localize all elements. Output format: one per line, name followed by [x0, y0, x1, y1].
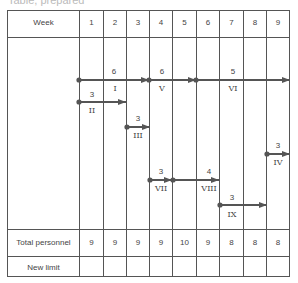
total-week-8: 8	[244, 238, 266, 247]
total-week-2: 9	[104, 238, 126, 247]
duration-I: 6	[104, 67, 124, 76]
week-1: 1	[80, 18, 103, 27]
week-header-label: Week	[8, 18, 79, 27]
total-personnel-label: Total personnel	[8, 238, 79, 247]
duration-II: 3	[82, 90, 102, 99]
label-VII: VII	[146, 184, 176, 193]
week-8: 8	[244, 18, 266, 27]
week-7: 7	[220, 18, 243, 27]
total-week-5: 10	[173, 238, 196, 247]
label-IV: IV	[263, 158, 293, 167]
week-5: 5	[173, 18, 196, 27]
duration-V: 6	[152, 67, 172, 76]
label-VIII: VIII	[194, 184, 224, 193]
label-VI: VI	[218, 84, 248, 93]
label-II: II	[77, 106, 107, 115]
duration-IV: 3	[268, 141, 288, 150]
duration-VI: 5	[223, 67, 243, 76]
label-III: III	[123, 131, 153, 140]
week-4: 4	[150, 18, 172, 27]
duration-VIII: 4	[199, 167, 219, 176]
total-week-1: 9	[80, 238, 103, 247]
label-V: V	[147, 84, 177, 93]
new-limit-label: New limit	[8, 263, 79, 272]
total-week-6: 9	[197, 238, 219, 247]
total-week-4: 9	[150, 238, 172, 247]
week-3: 3	[127, 18, 149, 27]
week-9: 9	[267, 18, 289, 27]
week-2: 2	[104, 18, 126, 27]
total-week-9: 8	[267, 238, 289, 247]
total-week-7: 8	[220, 238, 243, 247]
duration-IX: 3	[222, 193, 242, 202]
week-6: 6	[197, 18, 219, 27]
total-week-3: 9	[127, 238, 149, 247]
duration-VII: 3	[151, 167, 171, 176]
duration-III: 3	[128, 114, 148, 123]
label-I: I	[100, 84, 130, 93]
label-IX: IX	[217, 210, 247, 219]
